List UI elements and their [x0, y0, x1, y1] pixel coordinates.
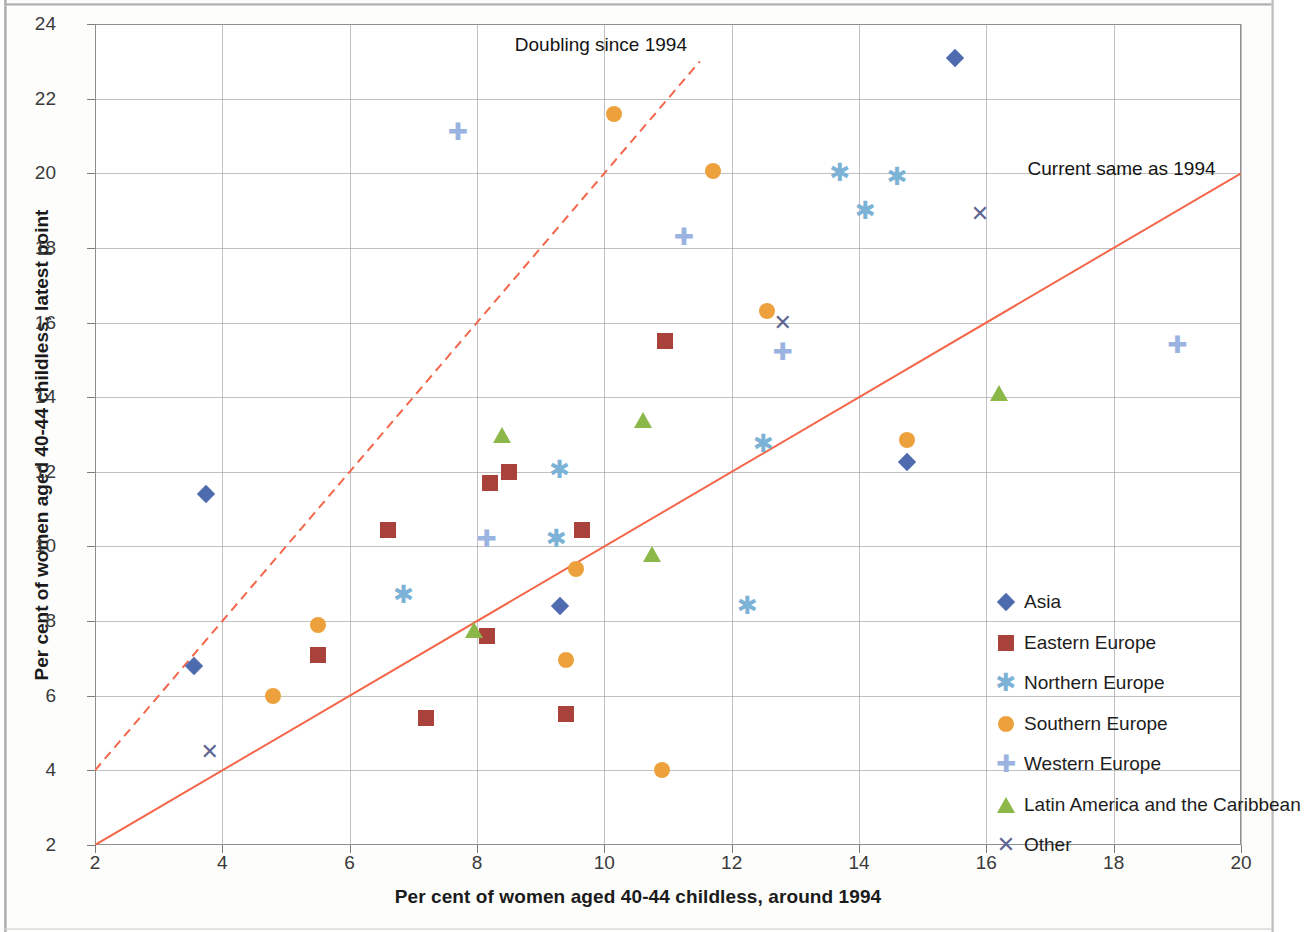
y-tick-label: 8: [0, 610, 56, 632]
legend-item-eastern-europe[interactable]: Eastern Europe: [993, 623, 1305, 664]
annotation-doubling-since-1994: Doubling since 1994: [515, 34, 687, 56]
data-point-circle: [899, 432, 915, 448]
plus-icon: ✚: [993, 751, 1019, 777]
data-point-square: [558, 706, 574, 722]
y-tick-mark: [87, 173, 95, 174]
legend-item-latin-america-and-the-caribbean[interactable]: Latin America and the Caribbean: [993, 785, 1305, 826]
data-point-triangle: [465, 622, 483, 638]
data-point-circle: [654, 762, 670, 778]
data-point-triangle: [643, 546, 661, 562]
x-tick-mark: [986, 845, 987, 853]
data-point-square: [310, 647, 326, 663]
y-tick-mark: [87, 248, 95, 249]
y-tick-mark: [87, 472, 95, 473]
legend-item-western-europe[interactable]: ✚Western Europe: [993, 744, 1305, 785]
data-point-circle: [759, 303, 775, 319]
legend-item-label: Northern Europe: [1024, 672, 1164, 694]
data-point-circle: [606, 106, 622, 122]
legend-item-asia[interactable]: Asia: [993, 582, 1305, 623]
data-point-circle: [705, 163, 721, 179]
circle-icon: [993, 711, 1019, 737]
legend-item-label: Other: [1024, 834, 1072, 856]
x-tick-mark: [95, 845, 96, 853]
y-tick-mark: [87, 397, 95, 398]
x-tick-label: 8: [472, 852, 483, 874]
x-tick-label: 2: [90, 852, 101, 874]
y-tick-mark: [87, 621, 95, 622]
diamond-icon: [993, 589, 1019, 615]
data-point-square: [482, 475, 498, 491]
x-tick-mark: [604, 845, 605, 853]
data-point-circle: [265, 688, 281, 704]
x-tick-label: 12: [721, 852, 742, 874]
data-point-circle: [558, 652, 574, 668]
y-tick-label: 14: [0, 386, 56, 408]
y-tick-label: 6: [0, 685, 56, 707]
data-point-square: [380, 522, 396, 538]
y-tick-label: 10: [0, 535, 56, 557]
y-tick-mark: [87, 546, 95, 547]
legend-item-southern-europe[interactable]: Southern Europe: [993, 704, 1305, 745]
legend-item-northern-europe[interactable]: ✱Northern Europe: [993, 663, 1305, 704]
y-tick-label: 16: [0, 312, 56, 334]
x-axis-title: Per cent of women aged 40-44 childless, …: [0, 886, 1276, 908]
y-tick-label: 12: [0, 461, 56, 483]
y-tick-label: 24: [0, 13, 56, 35]
x-tick-label: 4: [217, 852, 228, 874]
y-tick-mark: [87, 845, 95, 846]
asterisk-icon: ✱: [993, 670, 1019, 696]
legend-item-label: Western Europe: [1024, 753, 1161, 775]
legend-item-label: Latin America and the Caribbean: [1024, 794, 1301, 816]
y-tick-mark: [87, 323, 95, 324]
page-edge-bottom: [4, 928, 1272, 930]
x-tick-label: 6: [344, 852, 355, 874]
page-edge-top: [4, 3, 1272, 6]
y-tick-mark: [87, 99, 95, 100]
plot-area: ✱✱✱✱✱✱✱✱✚✚✚✚✚✕✕✕ Doubling since 1994 Cur…: [95, 24, 1241, 845]
annotation-current-same-as-1994: Current same as 1994: [1028, 158, 1216, 180]
triangle-icon: [993, 792, 1019, 818]
data-point-circle: [310, 617, 326, 633]
y-axis-title: Per cent of women aged 40-44 childless, …: [31, 125, 53, 765]
y-tick-label: 2: [0, 834, 56, 856]
x-tick-label: 10: [594, 852, 615, 874]
legend-item-label: Eastern Europe: [1024, 632, 1156, 654]
y-tick-mark: [87, 770, 95, 771]
x-tick-label: 14: [848, 852, 869, 874]
x-tick-mark: [350, 845, 351, 853]
square-icon: [993, 630, 1019, 656]
data-point-square: [657, 333, 673, 349]
data-point-triangle: [990, 385, 1008, 401]
legend-item-label: Southern Europe: [1024, 713, 1168, 735]
y-tick-label: 18: [0, 237, 56, 259]
legend-item-other[interactable]: ✕Other: [993, 825, 1305, 866]
x-tick-mark: [222, 845, 223, 853]
x-tick-mark: [732, 845, 733, 853]
y-tick-label: 20: [0, 162, 56, 184]
data-point-square: [501, 464, 517, 480]
data-point-square: [418, 710, 434, 726]
chart-legend: AsiaEastern Europe✱Northern EuropeSouthe…: [993, 582, 1305, 866]
legend-item-label: Asia: [1024, 591, 1061, 613]
x-tick-mark: [859, 845, 860, 853]
data-point-triangle: [634, 412, 652, 428]
x-tick-mark: [477, 845, 478, 853]
y-tick-mark: [87, 696, 95, 697]
y-tick-label: 22: [0, 88, 56, 110]
y-tick-mark: [87, 24, 95, 25]
y-tick-label: 4: [0, 759, 56, 781]
x-icon: ✕: [993, 832, 1019, 858]
data-point-square: [574, 522, 590, 538]
data-point-triangle: [493, 427, 511, 443]
data-point-circle: [568, 561, 584, 577]
